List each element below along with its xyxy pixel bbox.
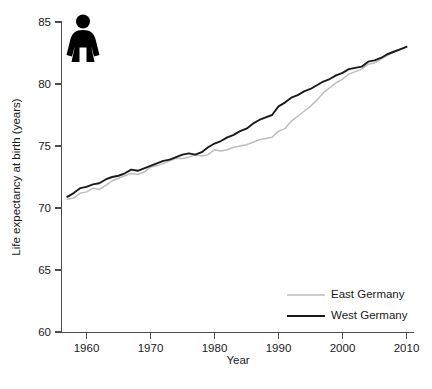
y-tick-label: 70	[38, 202, 51, 214]
x-tick-label: 1960	[74, 342, 100, 354]
y-tick-label: 65	[38, 264, 51, 276]
life-expectancy-chart: 606570758085 196019701980199020002010 Li…	[0, 0, 432, 389]
female-icon-head	[76, 15, 90, 29]
y-tick-label: 75	[38, 140, 51, 152]
x-tick-label: 1970	[138, 342, 164, 354]
y-tick-label: 80	[38, 78, 51, 90]
y-tick-label: 85	[38, 16, 51, 28]
legend-label: East Germany	[331, 288, 405, 300]
chart-background	[0, 0, 432, 389]
x-tick-label: 2000	[330, 342, 356, 354]
y-axis-title: Life expectancy at birth (years)	[10, 98, 22, 255]
x-tick-label: 2010	[394, 342, 420, 354]
y-tick-label: 60	[38, 326, 51, 338]
x-axis-title: Year	[226, 354, 249, 366]
x-tick-label: 1990	[266, 342, 292, 354]
x-tick-label: 1980	[202, 342, 228, 354]
legend-label: West Germany	[331, 309, 408, 321]
